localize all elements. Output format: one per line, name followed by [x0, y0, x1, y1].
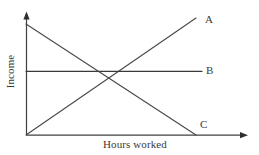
x-axis-label: Hours worked [80, 139, 190, 150]
series-label-b: B [206, 65, 213, 76]
x-axis-arrowhead-icon [240, 132, 248, 138]
y-axis-label: Income [5, 44, 16, 100]
series-label-a: A [205, 14, 213, 25]
y-axis-arrowhead-icon [23, 12, 29, 20]
chart-plot-area [0, 0, 259, 155]
chart-figure: Income Hours worked A B C [0, 0, 259, 155]
series-line-c [26, 24, 196, 135]
series-line-a [26, 18, 196, 135]
y-axis [23, 12, 29, 136]
series-label-c: C [200, 119, 207, 130]
